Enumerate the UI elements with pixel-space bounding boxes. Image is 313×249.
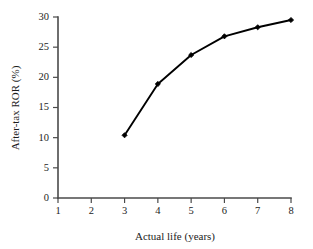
x-axis-title: Actual life (years) [135, 230, 215, 243]
y-tick-label: 5 [44, 162, 49, 173]
x-tick-label: 8 [288, 205, 293, 216]
x-tick-label: 1 [55, 205, 60, 216]
y-tick-label: 10 [39, 132, 50, 143]
data-point-marker [288, 17, 293, 22]
x-tick-label: 2 [89, 205, 94, 216]
series-markers [122, 17, 294, 137]
y-tick-label: 30 [39, 11, 50, 22]
x-tick-label: 5 [189, 205, 194, 216]
y-tick-label: 25 [39, 41, 50, 52]
y-tick-label: 0 [44, 192, 49, 203]
chart-figure: 051015202530 12345678 Actual life (years… [0, 0, 313, 249]
y-axis-ticks: 051015202530 [39, 11, 59, 203]
y-axis-title: After-tax ROR (%) [9, 65, 22, 150]
line-chart: 051015202530 12345678 Actual life (years… [0, 0, 313, 249]
data-series-after-tax-ror [122, 17, 294, 137]
chart-axes [58, 17, 291, 198]
x-tick-label: 4 [155, 205, 161, 216]
y-tick-label: 20 [39, 71, 50, 82]
x-tick-label: 7 [255, 205, 260, 216]
x-tick-label: 3 [122, 205, 127, 216]
x-tick-label: 6 [222, 205, 227, 216]
data-point-marker [255, 25, 260, 30]
y-tick-label: 15 [39, 101, 50, 112]
x-axis-ticks: 12345678 [55, 198, 293, 216]
series-line [125, 20, 291, 135]
